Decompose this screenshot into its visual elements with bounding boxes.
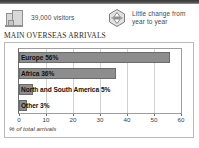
top-dark-band bbox=[0, 0, 199, 4]
bar-series: Europe 56%Africa 36%North and South Amer… bbox=[19, 49, 181, 113]
bar-label: Other 3% bbox=[21, 100, 50, 111]
tick-label-20: 20 bbox=[70, 116, 77, 123]
x-axis: 0102030405060 bbox=[18, 114, 182, 124]
tick-label-30: 30 bbox=[97, 116, 104, 123]
stat-visitors: 39,000 visitors bbox=[4, 8, 74, 28]
chart-title: MAIN OVERSEAS ARRIVALS bbox=[4, 31, 106, 40]
stat-visitors-label: 39,000 visitors bbox=[31, 14, 74, 22]
stat-little-change-label: Little change from year to year bbox=[132, 10, 194, 26]
plot-area: Europe 56%Africa 36%North and South Amer… bbox=[18, 48, 182, 114]
bar-label: Europe 56% bbox=[21, 52, 58, 63]
bar-row: North and South America 5% bbox=[19, 84, 181, 95]
bar-row: Africa 36% bbox=[19, 68, 181, 79]
little-change-hexagon-icon bbox=[107, 8, 127, 28]
tick-label-40: 40 bbox=[124, 116, 131, 123]
bar-row: Other 3% bbox=[19, 100, 181, 111]
screenshot-root: 39,000 visitors Little change from year … bbox=[0, 0, 199, 148]
bar-row: Europe 56% bbox=[19, 52, 181, 63]
bar-label: Africa 36% bbox=[21, 68, 54, 79]
building-icon bbox=[4, 8, 25, 28]
tick-label-50: 50 bbox=[151, 116, 158, 123]
chart-panel: Europe 56%Africa 36%North and South Amer… bbox=[4, 42, 194, 138]
stat-little-change: Little change from year to year bbox=[107, 8, 194, 28]
tick-label-10: 10 bbox=[43, 116, 50, 123]
bar-label: North and South America 5% bbox=[21, 84, 110, 95]
x-axis-label: % of total arrivals bbox=[9, 125, 56, 132]
tick-label-60: 60 bbox=[178, 116, 185, 123]
tick-label-0: 0 bbox=[17, 116, 20, 123]
